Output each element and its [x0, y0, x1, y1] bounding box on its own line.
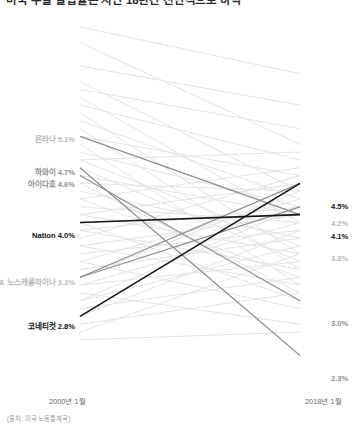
slope-line — [80, 42, 300, 144]
right-label-4-5: 4.5% — [331, 203, 348, 212]
slope-line — [80, 332, 300, 340]
slopegraph-svg — [0, 7, 363, 390]
right-label-2-3: 2.3% — [331, 375, 348, 384]
slope-line — [80, 168, 300, 356]
page-title: 미국 주별 실업률은 지난 18년간 전반적으로 하락 — [6, 0, 242, 7]
slope-line — [80, 82, 300, 192]
slope-line — [80, 207, 300, 277]
axis-caption-right: 2018년 1월 — [305, 395, 342, 406]
right-label-3-8: 3.8% — [331, 255, 348, 264]
slope-line — [80, 152, 300, 160]
slope-line — [80, 27, 300, 74]
left-label-michigan-northcarolina: 미시간 & 노스캐롤라이나 3.3% — [0, 278, 75, 287]
left-label-hawaii: 하와이 4.7% — [35, 169, 75, 178]
slope-line — [80, 89, 300, 128]
source-note: (출처: 미국 노동통계국) — [7, 414, 71, 423]
right-label-3-0: 3.0% — [331, 320, 348, 329]
slopegraph-plot-area — [0, 7, 363, 390]
slope-line — [80, 262, 300, 309]
right-label-4-1: 4.1% — [331, 233, 348, 242]
chart-title-clip: 미국 주별 실업률은 지난 18년간 전반적으로 하락 — [0, 0, 363, 7]
right-label-4-2: 4.2% — [331, 220, 348, 229]
left-label-nation: Nation 4.0% — [32, 232, 75, 241]
left-label-idaho: 아이다호 4.6% — [28, 181, 75, 190]
axis-caption-left: 2000년 1월 — [49, 395, 86, 406]
background-line-group — [80, 27, 300, 340]
left-label-connecticut: 코네티컷 2.8% — [28, 322, 75, 332]
left-label-montana: 몬타나 5.1% — [35, 136, 75, 145]
slope-line — [80, 66, 300, 105]
slope-line — [80, 230, 300, 316]
